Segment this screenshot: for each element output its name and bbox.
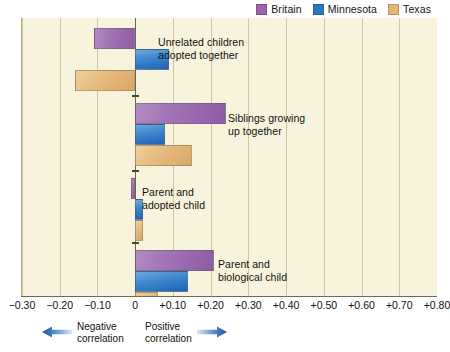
legend-label-minnesota: Minnesota: [328, 3, 377, 15]
zero-axis-tick: [132, 170, 139, 172]
group-label-1: Siblings growing up together: [228, 112, 305, 137]
gridline: [286, 18, 287, 296]
gridline: [399, 18, 400, 296]
x-tick-label-5: +0.20: [197, 299, 224, 311]
legend-item-texas: Texas: [388, 3, 431, 15]
x-tick-label-2: −0.10: [84, 299, 111, 311]
zero-axis-tick: [132, 95, 139, 97]
gridline: [22, 18, 23, 296]
x-tick-label-6: +0.30: [235, 299, 262, 311]
bar-britain-group-1: [135, 103, 226, 124]
bar-britain-group-0: [94, 28, 136, 49]
positive-correlation-note: Positive correlation: [145, 321, 227, 344]
positive-correlation-label: Positive correlation: [145, 321, 192, 344]
x-tick-label-11: +0.80: [424, 299, 450, 311]
negative-correlation-label: Negative correlation: [77, 321, 124, 344]
x-tick-label-3: 0: [132, 299, 138, 311]
arrow-right-icon: [197, 324, 227, 342]
legend-item-minnesota: Minnesota: [313, 3, 377, 15]
legend-item-britain: Britain: [256, 3, 301, 15]
gridline: [324, 18, 325, 296]
legend-swatch-minnesota: [313, 4, 324, 15]
x-tick-label-7: +0.40: [273, 299, 300, 311]
x-axis-tick-labels: −0.30−0.20−0.100+0.10+0.20+0.30+0.40+0.5…: [0, 299, 437, 315]
group-label-3: Parent and biological child: [218, 258, 287, 283]
legend-label-texas: Texas: [403, 3, 431, 15]
bar-minnesota-group-1: [135, 124, 165, 145]
x-axis-line: [21, 296, 437, 297]
chart-legend: Britain Minnesota Texas: [0, 0, 437, 18]
bar-britain-group-3: [135, 250, 214, 271]
gridline: [362, 18, 363, 296]
x-tick-label-1: −0.20: [46, 299, 73, 311]
gridline: [248, 18, 249, 296]
group-label-0: Unrelated children adopted together: [158, 36, 244, 61]
plot-left-border: [21, 18, 22, 296]
gridline: [60, 18, 61, 296]
arrow-left-icon: [42, 324, 72, 342]
negative-correlation-note: Negative correlation: [42, 321, 124, 344]
chart-footer: Negative correlation Positive correlatio…: [0, 318, 437, 352]
bar-britain-group-2: [131, 178, 135, 199]
x-tick-label-0: −0.30: [9, 299, 36, 311]
x-tick-label-10: +0.70: [386, 299, 413, 311]
legend-swatch-texas: [388, 4, 399, 15]
bar-texas-group-1: [135, 145, 192, 166]
legend-label-britain: Britain: [271, 3, 301, 15]
gridline: [97, 18, 98, 296]
bar-texas-group-0: [75, 70, 135, 91]
zero-axis-tick: [132, 242, 139, 244]
x-tick-label-4: +0.10: [160, 299, 187, 311]
bar-minnesota-group-3: [135, 271, 188, 292]
x-tick-label-8: +0.50: [311, 299, 338, 311]
bar-texas-group-2: [135, 220, 143, 241]
legend-swatch-britain: [256, 4, 267, 15]
x-tick-label-9: +0.60: [348, 299, 375, 311]
group-label-2: Parent and adopted child: [142, 186, 205, 211]
